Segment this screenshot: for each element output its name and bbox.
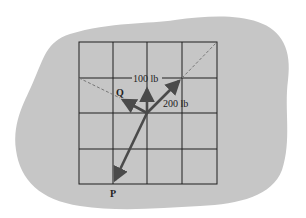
label-P: P	[110, 188, 116, 199]
diagram-canvas: 100 lb 200 lb Q P	[0, 0, 306, 218]
label-100-lb: 100 lb	[133, 73, 158, 84]
label-Q: Q	[116, 87, 124, 98]
label-200-lb: 200 lb	[163, 98, 188, 109]
force-diagram: 100 lb 200 lb Q P	[0, 0, 306, 218]
